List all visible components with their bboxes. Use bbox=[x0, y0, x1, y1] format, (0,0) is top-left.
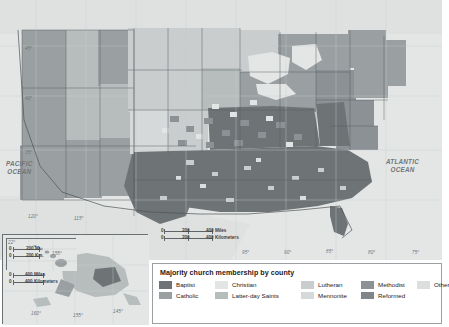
lon-label-80: 80° bbox=[368, 250, 375, 255]
legend-item-baptist[interactable]: Baptist bbox=[159, 281, 215, 289]
lat-label-40: 40° bbox=[25, 96, 32, 101]
legend-label-mennonite: Mennonite bbox=[318, 292, 347, 299]
legend-label-baptist: Baptist bbox=[176, 281, 195, 288]
legend-item-catholic[interactable]: Catholic bbox=[159, 292, 215, 300]
pacific-line1: PACIFIC bbox=[6, 160, 32, 167]
legend-label-christian: Christian bbox=[232, 281, 256, 288]
legend-label-methodist: Methodist bbox=[378, 281, 405, 288]
alaska-miles-zero: 0 bbox=[9, 272, 12, 277]
pacific-line2: OCEAN bbox=[7, 168, 31, 175]
legend-item-other[interactable]: Other bbox=[417, 281, 449, 289]
hawaii-miles-end: 200 Mi. bbox=[26, 246, 41, 251]
main-miles-mid: 200 bbox=[182, 228, 190, 233]
hawaii-km-zero: 0 bbox=[9, 253, 12, 258]
alaska-scale-km: 0 400 Kilometers bbox=[9, 279, 79, 286]
legend-label-catholic: Catholic bbox=[176, 292, 198, 299]
atlantic-line2: OCEAN bbox=[391, 166, 415, 173]
lon-label-95: 95° bbox=[242, 250, 249, 255]
pacific-ocean-label: PACIFIC OCEAN bbox=[6, 160, 32, 175]
atlantic-line1: ATLANTIC bbox=[386, 158, 419, 165]
lat-label-35: 35° bbox=[25, 150, 32, 155]
inset-lat-22: 22° bbox=[8, 240, 15, 245]
swatch-baptist bbox=[159, 281, 172, 289]
map-canvas[interactable]: 45° 40° 35° 120° 115° 95° 90° 85° 80° 75… bbox=[0, 0, 442, 260]
legend-item-methodist[interactable]: Methodist bbox=[361, 281, 417, 289]
lon-label-120: 120° bbox=[28, 214, 38, 219]
lon-label-115: 115° bbox=[74, 216, 84, 221]
legend-title: Majority church membership by county bbox=[160, 269, 435, 277]
main-miles-end: 400 Miles bbox=[206, 228, 226, 233]
legend-item-reformed[interactable]: Reformed bbox=[361, 292, 417, 300]
alaska-km-zero: 0 bbox=[9, 279, 12, 284]
atlantic-ocean-label: ATLANTIC OCEAN bbox=[386, 158, 419, 173]
legend-item-latter-day-saints[interactable]: Latter-day Saints bbox=[215, 292, 301, 300]
legend-item-lutheran[interactable]: Lutheran bbox=[301, 281, 361, 289]
legend-label-latter-day-saints: Latter-day Saints bbox=[232, 292, 279, 299]
swatch-reformed bbox=[361, 292, 374, 300]
alaska-scale-bar: 0 400 Miles 0 400 Kilometers bbox=[9, 272, 79, 286]
swatch-christian bbox=[215, 281, 228, 289]
main-miles-zero: 0 bbox=[161, 228, 164, 233]
legend-label-other: Other bbox=[434, 281, 449, 288]
swatch-other bbox=[417, 281, 430, 289]
main-km-end: 400 Kilometers bbox=[206, 235, 239, 240]
swatch-latter-day-saints bbox=[215, 292, 228, 300]
swatch-catholic bbox=[159, 292, 172, 300]
lon-label-90: 90° bbox=[284, 250, 291, 255]
main-km-zero: 0 bbox=[161, 235, 164, 240]
hawaii-scale-km: 0 200 Km. bbox=[9, 253, 67, 260]
legend-label-lutheran: Lutheran bbox=[318, 281, 342, 288]
alaska-km-end: 400 Kilometers bbox=[25, 279, 58, 284]
swatch-methodist bbox=[361, 281, 374, 289]
inset-lon-160: 160° bbox=[31, 311, 41, 316]
inset-lon-145: 145° bbox=[113, 309, 123, 314]
us-county-choropleth bbox=[0, 0, 442, 260]
hawaii-km-end: 200 Km. bbox=[26, 253, 44, 258]
map-legend[interactable]: Majority church membership by county Bap… bbox=[152, 263, 442, 324]
legend-items: Baptist Christian Lutheran Methodist Oth… bbox=[159, 281, 435, 299]
hawaii-miles-zero: 0 bbox=[9, 246, 12, 251]
legend-label-reformed: Reformed bbox=[378, 292, 405, 299]
main-km-mid: 200 bbox=[182, 235, 190, 240]
inset-lon-155: 155° bbox=[73, 313, 83, 318]
hawaii-scale-bar: 0 200 Mi. 0 200 Km. bbox=[9, 246, 67, 260]
lon-label-75: 75° bbox=[412, 250, 419, 255]
lon-label-85: 85° bbox=[326, 249, 333, 254]
main-scale-bar: 0 200 400 Miles 0 200 400 Kilometers bbox=[160, 228, 280, 242]
legend-item-mennonite[interactable]: Mennonite bbox=[301, 292, 361, 300]
swatch-mennonite bbox=[301, 292, 314, 300]
alaska-miles-end: 400 Miles bbox=[25, 272, 45, 277]
swatch-lutheran bbox=[301, 281, 314, 289]
main-scale-km: 0 200 400 Kilometers bbox=[160, 235, 280, 242]
legend-item-christian[interactable]: Christian bbox=[215, 281, 301, 289]
lat-label-45: 45° bbox=[25, 46, 32, 51]
